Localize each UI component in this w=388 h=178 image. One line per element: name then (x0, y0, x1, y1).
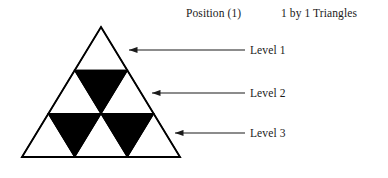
level-1-up-triangle-1 (75, 27, 128, 70)
triangle-diagram-svg (0, 0, 388, 178)
sierpinski-triangle-figure: Position (1) 1 by 1 Triangles Level 1 Le… (0, 0, 388, 178)
triangle-group (22, 27, 180, 157)
